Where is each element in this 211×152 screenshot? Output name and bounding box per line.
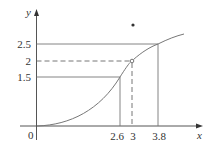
y-axis-arrow-icon <box>34 9 39 16</box>
open-point <box>130 59 134 63</box>
y-tick-2: 2 <box>26 55 32 67</box>
function-graph: y x 0 2.5 2 1.5 2.6 3 3.8 <box>0 0 211 152</box>
y-tick-2.5: 2.5 <box>17 38 31 50</box>
x-axis-label: x <box>196 129 202 141</box>
x-tick-2.6: 2.6 <box>110 130 124 142</box>
function-curve <box>37 34 184 126</box>
origin-label: 0 <box>28 129 34 141</box>
x-axis-arrow-icon <box>196 124 203 129</box>
isolated-point <box>131 23 134 26</box>
x-tick-3: 3 <box>130 130 136 142</box>
y-axis-label: y <box>25 6 31 18</box>
x-tick-3.8: 3.8 <box>152 130 166 142</box>
y-tick-1.5: 1.5 <box>17 71 31 83</box>
